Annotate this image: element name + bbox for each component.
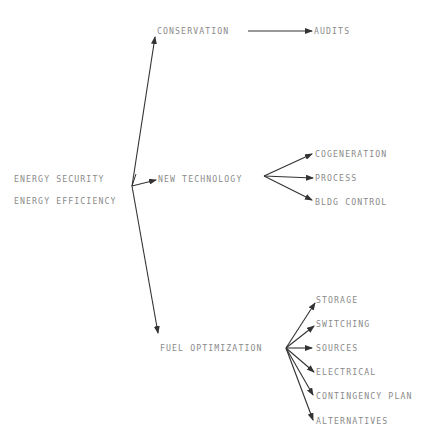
arrow-fuel-to-storage [286,303,315,348]
arrow-root-to-fuel-optimization [132,186,158,333]
node-cogeneration: COGENERATION [315,149,387,159]
node-audits: AUDITS [314,26,350,36]
arrow-root-to-new-technology [132,180,156,186]
node-contingency-plan: CONTINGENCY PLAN [316,391,412,401]
arrow-fuel-to-switching [286,326,314,348]
node-process: PROCESS [315,173,357,183]
node-electrical: ELECTRICAL [316,367,376,377]
node-conservation: CONSERVATION [157,26,229,36]
arrow-fuel-to-contingency-plan [286,348,313,395]
arrow-newtech-to-process [264,176,313,178]
node-bldg-control: BLDG CONTROL [315,197,387,207]
node-alternatives: ALTERNATIVES [316,416,388,426]
root-label-energy-efficiency: ENERGY EFFICIENCY [14,196,117,206]
node-fuel-optimization: FUEL OPTIMIZATION [160,343,263,353]
node-sources: SOURCES [316,343,358,353]
node-new-technology: NEW TECHNOLOGY [158,174,242,184]
arrow-newtech-to-cogeneration [264,154,312,176]
arrow-fuel-to-alternatives [286,348,313,420]
tree-diagram: ENERGY SECURITY ENERGY EFFICIENCY CONSER… [0,0,444,438]
arrow-layer [0,0,444,438]
root-label-energy-security: ENERGY SECURITY [14,174,104,184]
node-storage: STORAGE [316,295,358,305]
arrow-root-to-conservation [132,37,155,186]
node-switching: SWITCHING [316,319,370,329]
arrow-newtech-to-bldg-control [264,176,312,200]
